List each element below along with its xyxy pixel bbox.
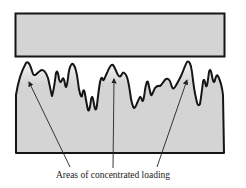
upper-block <box>16 14 225 57</box>
rough-surface-body <box>16 61 224 153</box>
caption: Areas of concentrated loading <box>0 170 226 180</box>
contact-diagram <box>0 0 246 188</box>
